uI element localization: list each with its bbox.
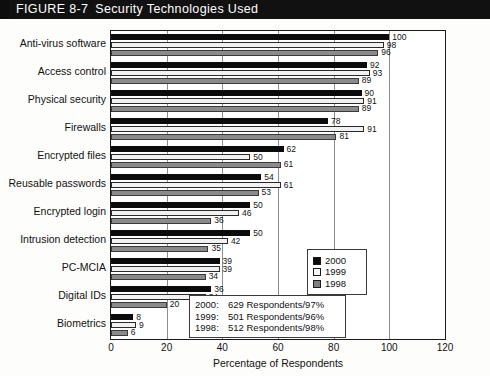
x-axis-ticks: 020406080100120 (110, 342, 446, 356)
bar-2000 (111, 230, 250, 236)
y-axis-label: PC-MCIA (0, 262, 106, 273)
bar-1998 (111, 50, 378, 56)
chart-container: Anti-virus softwareAccess controlPhysica… (0, 19, 490, 376)
bar-2000 (111, 90, 362, 96)
bar-1998 (111, 134, 336, 140)
gridline (389, 31, 390, 339)
bar-value-label: 36 (214, 216, 223, 225)
note-line: 1999: 501 Respondents/96% (195, 311, 340, 323)
bar-2000 (111, 286, 211, 292)
y-axis-label: Intrusion detection (0, 234, 106, 245)
bar-value-label: 61 (284, 181, 293, 190)
chart-legend: 2000 1999 1998 (307, 249, 367, 295)
x-axis-tick-label: 80 (328, 342, 339, 353)
y-axis-label: Anti-virus software (0, 38, 106, 49)
respondents-note-box: 2000: 629 Respondents/97% 1999: 501 Resp… (189, 295, 346, 338)
bar-2000 (111, 202, 250, 208)
bar-value-label: 20 (170, 300, 179, 309)
bar-value-label: 34 (209, 272, 218, 281)
y-axis-label: Reusable passwords (0, 178, 106, 189)
y-axis-label: Encrypted login (0, 206, 106, 217)
bar-1999 (111, 126, 364, 132)
note-year-1998: 1998: (195, 322, 228, 334)
x-axis-tick-label: 120 (437, 342, 454, 353)
bar-1998 (111, 162, 281, 168)
legend-label-1999: 1999 (325, 267, 346, 277)
bar-1998 (111, 302, 167, 308)
legend-swatch-1999-icon (313, 268, 321, 276)
legend-swatch-1998-icon (313, 280, 321, 288)
bar-2000 (111, 118, 328, 124)
bar-value-label: 50 (253, 201, 262, 210)
bar-value-label: 53 (262, 188, 271, 197)
bar-1999 (111, 70, 370, 76)
bar-value-label: 6 (131, 328, 136, 337)
note-text-1999: 501 Respondents/96% (228, 311, 324, 323)
bar-value-label: 81 (339, 132, 348, 141)
bar-value-label: 9 (139, 321, 144, 330)
legend-label-2000: 2000 (325, 256, 346, 266)
x-axis-tick-label: 0 (108, 342, 114, 353)
bar-1998 (111, 106, 359, 112)
legend-label-1998: 1998 (325, 279, 346, 289)
bar-1999 (111, 238, 228, 244)
bar-2000 (111, 258, 220, 264)
note-text-1998: 512 Respondents/98% (228, 322, 324, 334)
plot-area: 1009896929389909189789181625061546153504… (110, 30, 446, 340)
legend-item: 1998 (313, 279, 361, 289)
y-axis-labels: Anti-virus softwareAccess controlPhysica… (0, 30, 106, 340)
note-line: 2000: 629 Respondents/97% (195, 299, 340, 311)
note-text-2000: 629 Respondents/97% (228, 299, 324, 311)
bar-value-label: 35 (211, 244, 220, 253)
bar-1999 (111, 182, 281, 188)
y-axis-label: Encrypted files (0, 150, 106, 161)
bar-1998 (111, 190, 259, 196)
bar-value-label: 50 (253, 229, 262, 238)
note-year-1999: 1999: (195, 311, 228, 323)
figure-title: FIGURE 8-7Security Technologies Used (16, 2, 258, 16)
figure-number: FIGURE 8-7 (16, 2, 88, 16)
x-axis-tick-label: 60 (272, 342, 283, 353)
bar-1998 (111, 78, 359, 84)
x-axis-tick-label: 40 (217, 342, 228, 353)
figure-title-bar: FIGURE 8-7Security Technologies Used (0, 0, 490, 19)
legend-item: 2000 (313, 256, 361, 266)
bar-2000 (111, 174, 261, 180)
y-axis-label: Digital IDs (0, 290, 106, 301)
bar-value-label: 54 (264, 173, 273, 182)
y-axis-label: Access control (0, 66, 106, 77)
x-axis-title: Percentage of Respondents (110, 357, 446, 369)
bar-value-label: 39 (223, 265, 232, 274)
x-axis-tick-label: 100 (381, 342, 398, 353)
bar-value-label: 62 (287, 145, 296, 154)
bar-2000 (111, 34, 389, 40)
note-year-2000: 2000: (195, 299, 228, 311)
y-axis-label: Physical security (0, 94, 106, 105)
bar-1999 (111, 154, 250, 160)
legend-item: 1999 (313, 267, 361, 277)
figure-title-text: Security Technologies Used (95, 2, 258, 16)
bar-1998 (111, 246, 208, 252)
bar-1999 (111, 266, 220, 272)
bar-2000 (111, 314, 133, 320)
bar-value-label: 46 (242, 209, 251, 218)
legend-swatch-2000-icon (313, 257, 321, 265)
x-axis-tick-label: 20 (161, 342, 172, 353)
bar-1998 (111, 330, 128, 336)
bar-value-label: 89 (362, 76, 371, 85)
title-bar-accent (0, 0, 9, 19)
bar-value-label: 42 (231, 237, 240, 246)
bar-value-label: 61 (284, 160, 293, 169)
bar-value-label: 50 (253, 153, 262, 162)
bar-value-label: 89 (362, 104, 371, 113)
y-axis-label: Firewalls (0, 122, 106, 133)
y-axis-label: Biometrics (0, 318, 106, 329)
bar-value-label: 93 (373, 69, 382, 78)
bar-1999 (111, 42, 384, 48)
bar-1998 (111, 218, 211, 224)
bar-1999 (111, 98, 364, 104)
bar-2000 (111, 62, 367, 68)
bar-value-label: 96 (381, 48, 390, 57)
bar-value-label: 78 (331, 117, 340, 126)
bar-value-label: 91 (367, 125, 376, 134)
